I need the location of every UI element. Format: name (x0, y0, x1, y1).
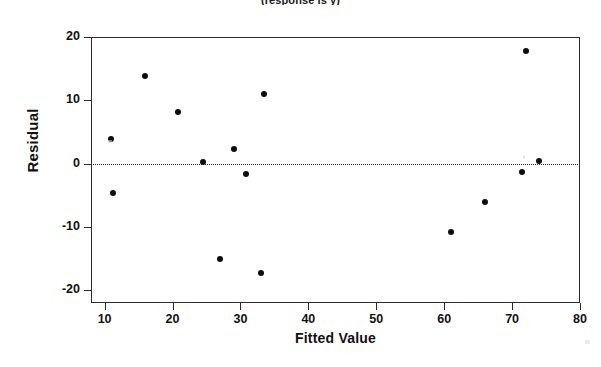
x-axis-tick-label: 80 (560, 312, 600, 326)
data-point (482, 199, 488, 205)
y-axis-tick-label: -20 (34, 282, 80, 296)
x-axis-title: Fitted Value (91, 330, 580, 346)
x-axis-tick-label: 50 (356, 312, 396, 326)
x-axis-tick-mark (173, 303, 174, 310)
y-axis-tick-label: 10 (34, 92, 80, 106)
x-axis-tick-mark (444, 303, 445, 310)
x-axis-tick-label: 40 (288, 312, 328, 326)
zero-residual-line (91, 164, 580, 165)
data-point (448, 229, 454, 235)
y-axis-tick-mark (84, 100, 91, 101)
data-point (258, 270, 264, 276)
y-axis-tick-label: 20 (34, 29, 80, 43)
y-axis-tick-mark (84, 164, 91, 165)
x-axis-tick-label: 20 (153, 312, 193, 326)
y-axis-tick-label: -10 (34, 219, 80, 233)
x-axis-tick-label: 10 (85, 312, 125, 326)
data-point (523, 48, 529, 54)
data-point (217, 256, 223, 262)
x-axis-tick-mark (512, 303, 513, 310)
data-point (243, 171, 249, 177)
y-axis-tick-mark (84, 290, 91, 291)
x-axis-tick-mark (240, 303, 241, 310)
scan-artifact (585, 340, 590, 344)
x-axis-tick-mark (105, 303, 106, 310)
x-axis-tick-label: 70 (492, 312, 532, 326)
x-axis-tick-mark (376, 303, 377, 310)
scan-artifact (108, 140, 112, 143)
x-axis-tick-mark (580, 303, 581, 310)
x-axis-tick-label: 60 (424, 312, 464, 326)
chart-subtitle: (response is y) (0, 0, 601, 5)
y-axis-tick-mark (84, 227, 91, 228)
residual-vs-fitted-scatter-chart: (response is y) Residual Fitted Value 20… (0, 0, 601, 367)
data-point (536, 158, 542, 164)
y-axis-tick-label: 0 (34, 156, 80, 170)
scan-artifact (523, 155, 525, 159)
x-axis-tick-label: 30 (220, 312, 260, 326)
plot-area-frame (91, 37, 580, 303)
x-axis-tick-mark (308, 303, 309, 310)
data-point (231, 146, 237, 152)
y-axis-tick-mark (84, 37, 91, 38)
